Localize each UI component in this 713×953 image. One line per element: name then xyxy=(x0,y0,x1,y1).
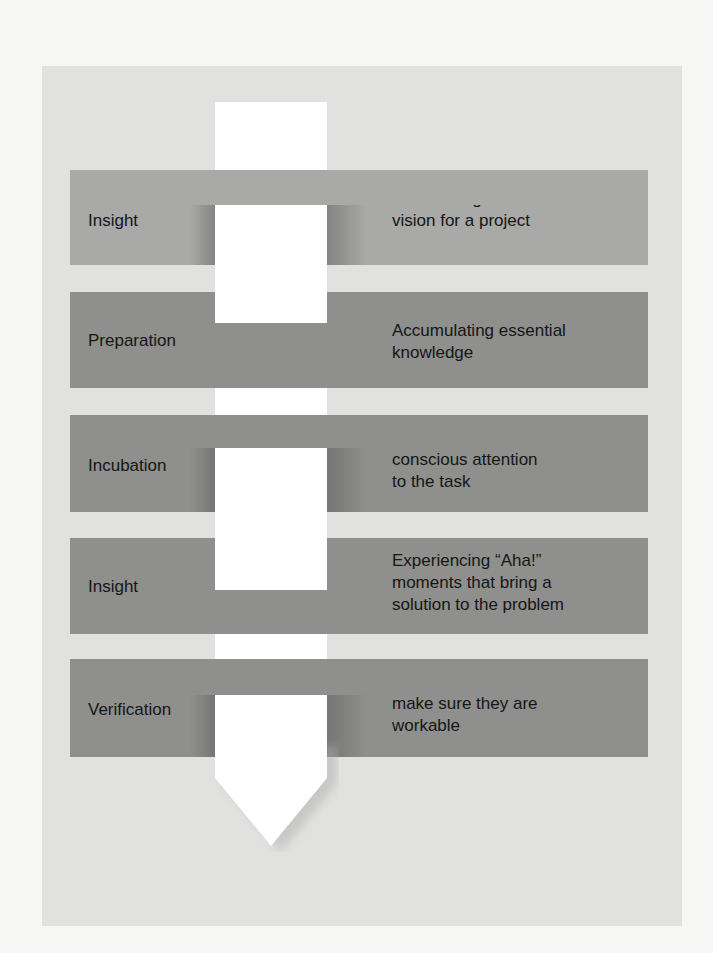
stage-description-line: vision for a project xyxy=(392,210,642,232)
arrow-shaft-segment xyxy=(215,448,327,512)
stage-top-strip xyxy=(70,170,648,205)
stage-top-strip xyxy=(70,659,648,695)
stage-description-line: Experiencing “Aha!” xyxy=(392,550,642,572)
stage-description-line: moments that bring a xyxy=(392,572,642,594)
stage-description: Experiencing “Aha!” moments that bring a… xyxy=(392,550,642,616)
stage-top-strip xyxy=(70,415,648,448)
stage-name: Preparation xyxy=(88,330,176,352)
stage-description-line: make sure they are xyxy=(392,693,642,715)
stage-description-line: workable xyxy=(392,715,642,737)
stage-preparation: Preparation Accumulating essential knowl… xyxy=(70,292,648,388)
stage-name: Insight xyxy=(88,576,138,598)
arrow-shaft-segment xyxy=(215,695,327,757)
stage-name-line: Preparation xyxy=(88,330,176,352)
stage-name-line: Incubation xyxy=(88,455,166,477)
stage-name: Verification xyxy=(88,699,171,721)
stage-name: Incubation xyxy=(88,455,166,477)
stage-description: Accumulating essential knowledge xyxy=(392,320,642,364)
arrow-shaft-segment xyxy=(215,538,327,590)
stage-description-line: to the task xyxy=(392,471,642,493)
stage-description-line: conscious attention xyxy=(392,449,642,471)
arrow-shaft-segment xyxy=(215,205,327,265)
stage-description-line: solution to the problem xyxy=(392,594,642,616)
stage-description-line: Accumulating essential xyxy=(392,320,642,342)
stage-insight: Insight Experiencing “Aha!” moments that… xyxy=(70,538,648,634)
stage-name-line: Verification xyxy=(88,699,171,721)
stage-description-line: knowledge xyxy=(392,342,642,364)
arrow-shaft-segment xyxy=(215,292,327,323)
stage-name-line: Insight xyxy=(88,210,138,232)
stage-name-line: Insight xyxy=(88,576,138,598)
